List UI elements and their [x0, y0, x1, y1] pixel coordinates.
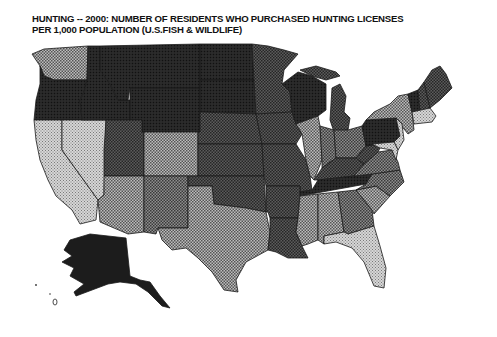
state-ar: [266, 186, 300, 218]
us-choropleth-map: [0, 0, 497, 337]
state-nm: [144, 176, 188, 234]
state-ms: [296, 194, 318, 246]
state-co: [144, 132, 198, 176]
state-ne: [198, 112, 262, 144]
state-nd: [200, 44, 254, 80]
aleutian-island: [35, 284, 37, 286]
state-sd: [200, 80, 256, 114]
state-ak: [62, 234, 170, 308]
state-ks: [198, 144, 264, 176]
aleutian-island: [53, 299, 57, 305]
state-me: [424, 66, 452, 108]
aleutian-island: [49, 293, 51, 295]
state-ut: [104, 120, 144, 176]
state-az: [98, 176, 144, 234]
state-fl: [324, 226, 386, 288]
